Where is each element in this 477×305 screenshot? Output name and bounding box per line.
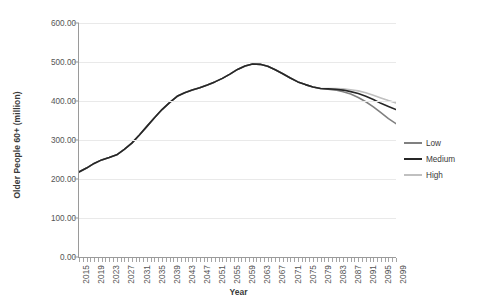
x-axis-tick-mark xyxy=(177,258,178,262)
x-axis-tick-mark xyxy=(204,258,205,262)
x-axis-tick-label: 2055 xyxy=(233,265,242,284)
x-axis-tick-mark xyxy=(105,258,106,262)
x-axis-tick-mark xyxy=(192,258,193,262)
gridline xyxy=(79,101,396,102)
x-axis-tick-mark xyxy=(230,258,231,262)
series-line-medium xyxy=(79,64,396,172)
series-line-high xyxy=(79,64,396,172)
y-axis-tick-label: 500.00 xyxy=(24,58,76,67)
gridline xyxy=(79,23,396,24)
x-axis-tick-label: 2087 xyxy=(354,265,363,284)
x-axis-tick-mark xyxy=(188,258,189,262)
x-axis-tick-mark xyxy=(124,258,125,262)
x-axis-tick-mark xyxy=(154,258,155,262)
x-axis-tick-mark xyxy=(271,258,272,262)
x-axis-tick-mark xyxy=(287,258,288,262)
x-axis-tick-mark xyxy=(249,258,250,262)
y-axis-tick-mark xyxy=(74,23,79,24)
x-axis-tick-label: 2099 xyxy=(399,265,408,284)
x-axis-tick-label: 2091 xyxy=(369,265,378,284)
legend-label: Low xyxy=(426,139,441,148)
legend-swatch-icon xyxy=(404,142,422,144)
x-axis-tick-label: 2015 xyxy=(82,265,91,284)
x-axis-tick-label: 2031 xyxy=(143,265,152,284)
x-axis-tick-mark xyxy=(283,258,284,262)
x-axis-tick-mark xyxy=(347,258,348,262)
x-axis-tick-label: 2071 xyxy=(294,265,303,284)
x-axis-tick-mark xyxy=(79,258,80,262)
x-axis-tick-label: 2043 xyxy=(188,265,197,284)
series-line-low xyxy=(79,64,396,172)
y-axis-tick-labels: 0.00100.00200.00300.00400.00500.00600.00 xyxy=(24,0,76,305)
x-axis-tick-mark xyxy=(173,258,174,262)
y-axis-tick-label: 200.00 xyxy=(24,175,76,184)
x-axis-tick-label: 2023 xyxy=(112,265,121,284)
plot-area xyxy=(79,23,396,257)
x-axis-tick-mark xyxy=(388,258,389,262)
x-axis-tick-mark xyxy=(305,258,306,262)
x-axis-tick-label: 2059 xyxy=(248,265,257,284)
x-axis-tick-mark xyxy=(279,258,280,262)
x-axis-tick-mark xyxy=(226,258,227,262)
x-axis-tick-mark xyxy=(211,258,212,262)
x-axis-tick-label: 2075 xyxy=(309,265,318,284)
legend-label: High xyxy=(426,171,443,180)
x-axis-tick-mark xyxy=(324,258,325,262)
legend-label: Medium xyxy=(426,155,455,164)
x-axis-tick-mark xyxy=(151,258,152,262)
x-axis-tick-mark xyxy=(238,258,239,262)
y-axis-tick-label: 100.00 xyxy=(24,214,76,223)
x-axis-tick-mark xyxy=(117,258,118,262)
x-axis-tick-mark xyxy=(207,258,208,262)
x-axis-tick-mark xyxy=(162,258,163,262)
x-axis-tick-mark xyxy=(381,258,382,262)
x-axis-tick-mark xyxy=(339,258,340,262)
x-axis-tick-mark xyxy=(275,258,276,262)
x-axis-tick-mark xyxy=(139,258,140,262)
x-axis-tick-mark xyxy=(354,258,355,262)
x-axis-tick-mark xyxy=(90,258,91,262)
legend-item-medium[interactable]: Medium xyxy=(404,151,474,167)
x-axis-tick-mark xyxy=(234,258,235,262)
x-axis-title: Year xyxy=(0,287,477,297)
gridline xyxy=(79,140,396,141)
x-axis-tick-mark xyxy=(215,258,216,262)
chart-legend: LowMediumHigh xyxy=(404,135,474,183)
x-axis-tick-mark xyxy=(102,258,103,262)
x-axis-tick-label: 2051 xyxy=(218,265,227,284)
x-axis-tick-mark xyxy=(87,258,88,262)
legend-item-low[interactable]: Low xyxy=(404,135,474,151)
x-axis-tick-mark xyxy=(121,258,122,262)
x-axis-tick-mark xyxy=(219,258,220,262)
x-axis-tick-label: 2039 xyxy=(173,265,182,284)
x-axis-tick-mark xyxy=(143,258,144,262)
x-axis-tick-label: 2027 xyxy=(127,265,136,284)
x-axis-tick-mark xyxy=(328,258,329,262)
x-axis-tick-label: 2063 xyxy=(263,265,272,284)
x-axis-tick-label: 2035 xyxy=(158,265,167,284)
gridline xyxy=(79,179,396,180)
x-axis-tick-mark xyxy=(166,258,167,262)
x-axis-tick-mark xyxy=(392,258,393,262)
x-axis-tick-mark xyxy=(256,258,257,262)
legend-item-high[interactable]: High xyxy=(404,167,474,183)
x-axis-tick-mark xyxy=(343,258,344,262)
x-axis-tick-label: 2079 xyxy=(324,265,333,284)
x-axis-tick-mark xyxy=(290,258,291,262)
legend-swatch-icon xyxy=(404,158,422,160)
y-axis-tick-mark xyxy=(74,101,79,102)
x-axis-tick-label: 2019 xyxy=(97,265,106,284)
x-axis-tick-mark xyxy=(294,258,295,262)
x-axis-tick-mark xyxy=(245,258,246,262)
x-axis-tick-mark xyxy=(109,258,110,262)
x-axis-tick-mark xyxy=(385,258,386,262)
line-chart: Older People 60+ (million) 0.00100.00200… xyxy=(0,0,477,305)
x-axis-tick-mark xyxy=(170,258,171,262)
x-axis-tick-mark xyxy=(94,258,95,262)
x-axis-tick-mark xyxy=(128,258,129,262)
x-axis-tick-mark xyxy=(253,258,254,262)
y-axis-tick-label: 300.00 xyxy=(24,136,76,145)
x-axis-tick-mark xyxy=(309,258,310,262)
x-axis-tick-mark xyxy=(181,258,182,262)
x-axis-tick-mark xyxy=(313,258,314,262)
